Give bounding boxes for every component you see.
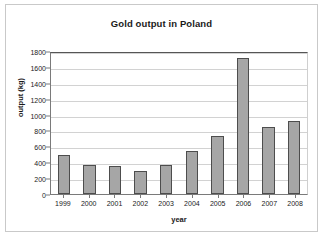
x-tick-label: 2007: [256, 200, 282, 207]
x-tick-label: 2000: [76, 200, 102, 207]
x-tick-slot: 1999: [50, 195, 76, 211]
bar-slot: [230, 53, 256, 194]
x-tick-mark: [140, 195, 141, 198]
chart-frame: Gold output in Poland output (kg) 020040…: [5, 4, 318, 232]
bar-2000[interactable]: [83, 165, 95, 194]
x-tick-label: 1999: [50, 200, 76, 207]
x-tick-mark: [166, 195, 167, 198]
x-tick-mark: [243, 195, 244, 198]
y-tick-label: 1800: [30, 49, 46, 56]
y-tick-label: 1400: [30, 80, 46, 87]
x-tick-label: 2002: [127, 200, 153, 207]
x-tick-slot: 2001: [102, 195, 128, 211]
x-tick-label: 2004: [179, 200, 205, 207]
x-tick-label: 2003: [153, 200, 179, 207]
bar-slot: [153, 53, 179, 194]
x-tick-slot: 2005: [205, 195, 231, 211]
chart-title: Gold output in Poland: [6, 18, 317, 29]
y-tick-label: 1000: [30, 112, 46, 119]
x-axis-ticks: 1999200020012002200320042005200620072008: [50, 195, 308, 211]
bar-slot: [205, 53, 231, 194]
bar-2005[interactable]: [211, 136, 223, 194]
x-tick-mark: [89, 195, 90, 198]
bar-slot: [256, 53, 282, 194]
bar-slot: [179, 53, 205, 194]
bar-1999[interactable]: [58, 155, 70, 194]
x-tick-label: 2001: [102, 200, 128, 207]
x-tick-label: 2005: [205, 200, 231, 207]
bar-slot: [281, 53, 307, 194]
x-tick-label: 2006: [231, 200, 257, 207]
x-tick-mark: [295, 195, 296, 198]
x-tick-slot: 2003: [153, 195, 179, 211]
bar-2007[interactable]: [262, 127, 274, 194]
bar-2002[interactable]: [134, 171, 146, 194]
bar-2004[interactable]: [186, 151, 198, 194]
x-axis-title: year: [50, 215, 308, 224]
bar-slot: [128, 53, 154, 194]
x-tick-mark: [114, 195, 115, 198]
y-tick-label: 1600: [30, 64, 46, 71]
y-tick-label: 400: [34, 160, 46, 167]
y-tick-label: 800: [34, 128, 46, 135]
x-tick-mark: [192, 195, 193, 198]
bar-slot: [102, 53, 128, 194]
x-tick-slot: 2008: [282, 195, 308, 211]
bar-series: [51, 53, 307, 194]
x-tick-label: 2008: [282, 200, 308, 207]
y-axis-ticks: 020040060080010001200140016001800: [20, 52, 46, 195]
x-tick-mark: [269, 195, 270, 198]
y-tick-label: 600: [34, 144, 46, 151]
bar-slot: [51, 53, 77, 194]
x-tick-slot: 2006: [231, 195, 257, 211]
x-tick-mark: [218, 195, 219, 198]
bar-2001[interactable]: [109, 166, 121, 194]
plot-area: [50, 52, 308, 195]
x-tick-slot: 2004: [179, 195, 205, 211]
bar-slot: [77, 53, 103, 194]
x-tick-slot: 2000: [76, 195, 102, 211]
y-tick-label: 200: [34, 176, 46, 183]
x-tick-slot: 2002: [127, 195, 153, 211]
x-tick-slot: 2007: [256, 195, 282, 211]
y-tick-label: 1200: [30, 96, 46, 103]
bar-2003[interactable]: [160, 165, 172, 194]
bar-2006[interactable]: [237, 58, 249, 194]
bar-2008[interactable]: [288, 121, 300, 194]
x-tick-mark: [63, 195, 64, 198]
